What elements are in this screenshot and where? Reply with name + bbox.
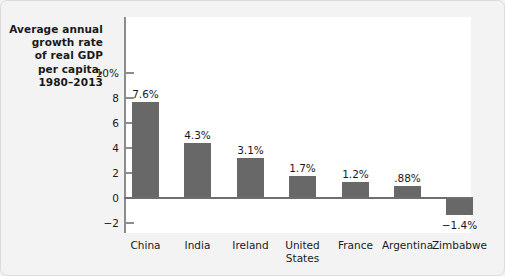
bar-india [184, 143, 211, 197]
y-tick-label-10: 10% [49, 68, 119, 79]
y-tick-label-neg2: −2 [49, 218, 119, 229]
chart-y-axis-title: Average annual growth rate of real GDP p… [5, 23, 103, 89]
y-tick-mark-10 [126, 72, 134, 74]
bar-value-label-china: 7.6% [111, 89, 181, 100]
plot-area [124, 17, 471, 233]
bar-united-states [289, 176, 316, 197]
y-axis-title-line-2: growth rate [5, 36, 103, 49]
y-axis-line [124, 17, 126, 233]
bar-value-label-argentina: .88% [373, 173, 443, 184]
y-tick-label-2: 2 [49, 168, 119, 179]
y-tick-label-0: 0 [49, 193, 119, 204]
bar-zimbabwe [446, 197, 473, 215]
y-axis-title-line-1: Average annual [5, 23, 103, 36]
chart-figure: Average annual growth rate of real GDP p… [0, 0, 505, 276]
bar-value-label-ireland: 3.1% [216, 145, 286, 156]
x-axis-label-united-states-line-2: States [266, 252, 340, 265]
zero-baseline [124, 197, 471, 199]
y-tick-label-8: 8 [49, 93, 119, 104]
bar-value-label-india: 4.3% [163, 130, 233, 141]
bar-ireland [237, 158, 264, 197]
bar-value-label-zimbabwe: −1.4% [425, 220, 495, 231]
y-tick-label-6: 6 [49, 118, 119, 129]
x-axis-label-zimbabwe: Zimbabwe [423, 239, 497, 252]
bar-argentina [394, 186, 421, 197]
y-axis-title-line-3: of real GDP [5, 49, 103, 62]
bar-france [342, 182, 369, 197]
bar-china [132, 102, 159, 197]
y-tick-mark-neg2 [126, 222, 134, 224]
x-axis-label-zimbabwe-line-1: Zimbabwe [423, 239, 497, 252]
y-tick-label-4: 4 [49, 143, 119, 154]
